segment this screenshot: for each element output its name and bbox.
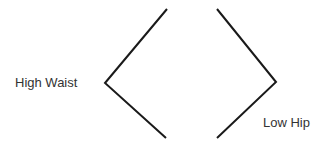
- low-hip-label: Low Hip: [263, 116, 310, 129]
- high-waist-label: High Waist: [15, 76, 77, 89]
- left-chevron-line: [105, 9, 167, 138]
